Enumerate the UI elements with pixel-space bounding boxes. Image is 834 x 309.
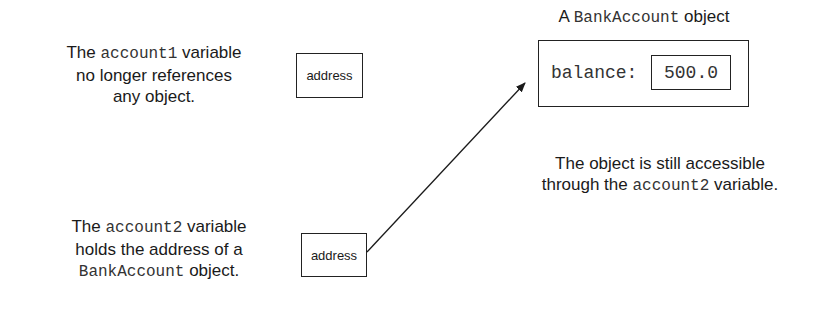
object-title: A BankAccount object (533, 7, 755, 27)
account2-caption: The account2 variable holds the address … (36, 216, 282, 283)
variable-name-account2: account2 (105, 219, 182, 237)
object-caption-line1: The object is still accessible (490, 153, 830, 174)
balance-field-value-box: 500.0 (651, 55, 731, 90)
variable-name-account1: account1 (100, 45, 177, 63)
caption-text: variable (177, 43, 241, 62)
caption-text: variable (182, 217, 246, 236)
object-reference-diagram: The account1 variable no longer referenc… (0, 0, 834, 309)
balance-field-label: balance: (551, 62, 637, 84)
caption-text: through the (542, 175, 633, 194)
caption-text: The (66, 43, 100, 62)
object-title-text: object (679, 7, 729, 26)
caption-text: The (71, 217, 105, 236)
caption-text: variable. (709, 175, 778, 194)
object-caption: The object is still accessible through t… (490, 153, 830, 197)
account2-caption-line3: BankAccount object. (36, 260, 282, 283)
account1-address-label: address (306, 68, 352, 83)
account2-address-label: address (311, 248, 357, 263)
account1-reference-box: address (296, 53, 363, 98)
account1-caption: The account1 variable no longer referenc… (36, 42, 272, 107)
account1-caption-line2: no longer references (36, 65, 272, 86)
account2-reference-box: address (301, 233, 367, 277)
variable-name-account2: account2 (632, 177, 709, 195)
caption-text: object. (184, 261, 239, 280)
account1-caption-line3: any object. (36, 86, 272, 107)
object-caption-line2: through the account2 variable. (490, 174, 830, 197)
bankaccount-object-box: balance: 500.0 (538, 40, 749, 107)
account1-caption-line1: The account1 variable (36, 42, 272, 65)
class-name-bankaccount: BankAccount (79, 263, 185, 281)
balance-field-value: 500.0 (664, 63, 718, 83)
object-title-text: A (559, 7, 574, 26)
account2-caption-line1: The account2 variable (36, 216, 282, 239)
account2-caption-line2: holds the address of a (36, 239, 282, 260)
object-class-name: BankAccount (574, 9, 680, 27)
